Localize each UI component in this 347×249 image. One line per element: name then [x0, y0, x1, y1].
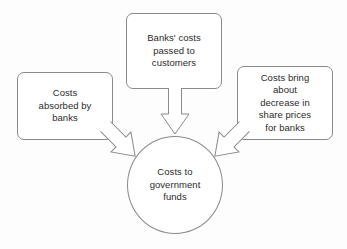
node-label: Banks' costs passed to customers: [144, 32, 204, 70]
node-label: Costs to government funds: [147, 166, 204, 204]
arrow-top-to-circle-icon: [155, 88, 195, 138]
node-banks-costs-passed-to-customers[interactable]: Banks' costs passed to customers: [126, 13, 222, 89]
node-label: Costs bring about decrease in share pric…: [256, 72, 314, 135]
flow-diagram: Banks' costs passed to customers Costs a…: [0, 0, 347, 249]
arrow-right-to-circle-icon: [206, 118, 252, 166]
arrow-left-to-circle-icon: [98, 118, 144, 166]
node-label: Costs absorbed by banks: [36, 87, 95, 125]
